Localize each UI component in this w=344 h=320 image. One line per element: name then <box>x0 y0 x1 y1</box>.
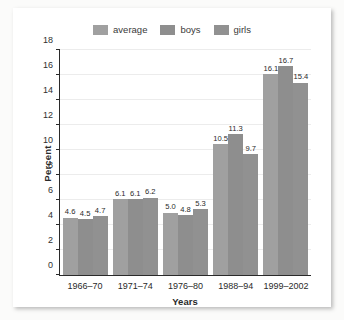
bar-value-label: 16.1 <box>264 65 279 73</box>
bar-value-label: 5.3 <box>195 200 206 208</box>
chart-card: average boys girls Percent 0246810121416… <box>13 8 331 307</box>
bar-value-label: 4.8 <box>180 206 191 214</box>
y-tick-label: 4 <box>48 210 53 220</box>
x-axis-title: Years <box>59 296 311 307</box>
bar-value-label: 5.0 <box>165 203 176 211</box>
legend-label-girls: girls <box>234 25 251 35</box>
bar-rect <box>213 144 228 275</box>
bar-rect <box>293 83 308 276</box>
bar-rect <box>278 66 293 275</box>
bar-girls[interactable]: 15.4 <box>293 50 308 275</box>
x-tick-label: 1971–74 <box>118 281 153 291</box>
bar-value-label: 15.4 <box>294 73 309 81</box>
bar-group: 10.511.39.71988–94 <box>211 50 261 275</box>
bar-value-label: 6.2 <box>145 188 156 196</box>
bar-value-label: 9.7 <box>245 145 256 153</box>
plot-area: 024681012141618 4.64.54.71966–706.16.16.… <box>59 50 311 276</box>
y-tick-label: 14 <box>43 85 53 95</box>
bar-value-label: 4.5 <box>80 210 91 218</box>
legend-swatch-girls <box>214 25 229 35</box>
y-tick-label: 8 <box>48 160 53 170</box>
x-tick-label: 1966–70 <box>68 281 103 291</box>
bar-boys[interactable]: 16.7 <box>278 50 293 275</box>
bar-group: 6.16.16.21971–74 <box>110 50 160 275</box>
bar-group: 5.04.85.31976–80 <box>160 50 210 275</box>
y-tick-label: 0 <box>48 260 53 270</box>
bar-girls[interactable]: 9.7 <box>243 50 258 275</box>
bar-average[interactable]: 5.0 <box>163 50 178 275</box>
legend-swatch-boys <box>160 25 175 35</box>
bar-rect <box>143 198 158 275</box>
bar-boys[interactable]: 4.8 <box>178 50 193 275</box>
bar-rect <box>93 216 108 275</box>
bar-rect <box>263 74 278 275</box>
chart-figure: average boys girls Percent 0246810121416… <box>0 0 344 320</box>
bar-boys[interactable]: 4.5 <box>78 50 93 275</box>
bar-girls[interactable]: 5.3 <box>193 50 208 275</box>
bar-rect <box>178 215 193 275</box>
bar-value-label: 4.7 <box>95 207 106 215</box>
bar-value-label: 16.7 <box>279 57 294 65</box>
legend-item-boys[interactable]: boys <box>160 25 200 35</box>
legend-label-average: average <box>113 25 147 35</box>
bar-rect <box>163 213 178 276</box>
legend-item-average[interactable]: average <box>93 25 147 35</box>
bar-average[interactable]: 6.1 <box>113 50 128 275</box>
bar-value-label: 6.1 <box>115 190 126 198</box>
bar-value-label: 6.1 <box>130 190 141 198</box>
y-tick-label: 6 <box>48 185 53 195</box>
bar-average[interactable]: 10.5 <box>213 50 228 275</box>
chart-legend: average boys girls <box>13 22 331 38</box>
y-tick-label: 12 <box>43 110 53 120</box>
bar-rect <box>113 199 128 275</box>
legend-item-girls[interactable]: girls <box>214 25 251 35</box>
bar-average[interactable]: 4.6 <box>63 50 78 275</box>
bar-group: 4.64.54.71966–70 <box>60 50 110 275</box>
bar-girls[interactable]: 4.7 <box>93 50 108 275</box>
bar-girls[interactable]: 6.2 <box>143 50 158 275</box>
bar-rect <box>78 219 93 275</box>
x-tick-label: 1999–2002 <box>263 281 308 291</box>
bar-average[interactable]: 16.1 <box>263 50 278 275</box>
bar-group: 16.116.715.41999–2002 <box>261 50 311 275</box>
x-tick-label: 1988–94 <box>218 281 253 291</box>
y-tick-label: 16 <box>43 60 53 70</box>
y-tick-label: 18 <box>43 35 53 45</box>
bar-boys[interactable]: 11.3 <box>228 50 243 275</box>
bar-rect <box>228 134 243 275</box>
bar-rect <box>193 209 208 275</box>
bar-value-label: 4.6 <box>65 208 76 216</box>
y-tick-label: 10 <box>43 135 53 145</box>
x-tick-label: 1976–80 <box>168 281 203 291</box>
bar-value-label: 11.3 <box>229 125 243 133</box>
bar-rect <box>243 154 258 275</box>
legend-swatch-average <box>93 25 108 35</box>
legend-label-boys: boys <box>180 25 200 35</box>
bar-boys[interactable]: 6.1 <box>128 50 143 275</box>
y-tick-label: 2 <box>48 235 53 245</box>
bar-groups: 4.64.54.71966–706.16.16.21971–745.04.85.… <box>60 50 311 275</box>
bar-rect <box>128 199 143 275</box>
bar-rect <box>63 218 78 276</box>
bar-value-label: 10.5 <box>213 135 228 143</box>
